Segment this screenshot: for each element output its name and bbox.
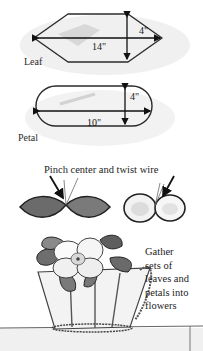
petal-label: Petal (18, 132, 38, 143)
flower (53, 238, 103, 278)
gather-line-4: petals into (145, 286, 189, 300)
gather-line-2: sets of (145, 259, 189, 273)
leaf-label: Leaf (24, 56, 42, 67)
gather-caption: Gather sets of leaves and petals into fl… (145, 245, 189, 313)
gather-line-5: flowers (145, 299, 189, 313)
petal-width-dimension: 4" (130, 91, 139, 102)
pinched-petal (124, 176, 185, 222)
leaf-length-dimension: 14" (92, 41, 106, 52)
petal-length-dimension: 10" (87, 117, 101, 128)
pinch-caption: Pinch center and twist wire (44, 164, 158, 175)
gather-line-3: leaves and (145, 272, 189, 286)
pinched-leaf (20, 176, 110, 217)
gather-line-1: Gather (145, 245, 189, 259)
leaf-width-dimension: 4" (139, 25, 148, 36)
